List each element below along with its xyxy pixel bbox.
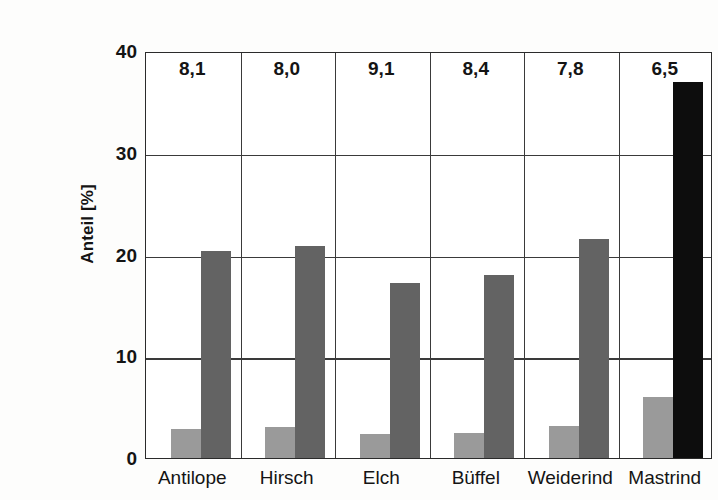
value-label-weiderind: 7,8 bbox=[523, 59, 618, 78]
value-label-antilope: 8,1 bbox=[145, 59, 240, 78]
bar-chart-figure: Anteil [%] 403020100 8,18,09,18,47,86,5 … bbox=[40, 16, 678, 484]
value-label-hirsch: 8,0 bbox=[240, 59, 335, 78]
bar-light-hirsch bbox=[265, 427, 295, 458]
gridline-10 bbox=[146, 358, 711, 359]
value-label-büffel: 8,4 bbox=[429, 59, 524, 78]
bar-light-antilope bbox=[171, 429, 201, 459]
y-tick-10: 10 bbox=[93, 347, 137, 366]
bar-dark-büffel bbox=[484, 275, 514, 458]
gridline-30 bbox=[146, 155, 711, 156]
group-divider bbox=[619, 53, 620, 458]
group-divider bbox=[335, 53, 336, 458]
group-divider bbox=[241, 53, 242, 458]
y-tick-30: 30 bbox=[93, 144, 137, 163]
bar-dark-weiderind bbox=[579, 239, 609, 458]
y-tick-20: 20 bbox=[93, 246, 137, 265]
category-label-elch: Elch bbox=[334, 468, 429, 487]
gridline-20 bbox=[146, 257, 711, 258]
group-divider bbox=[430, 53, 431, 458]
bar-dark-mastrind bbox=[673, 82, 703, 458]
category-label-mastrind: Mastrind bbox=[618, 468, 713, 487]
bar-dark-antilope bbox=[201, 251, 231, 458]
y-axis-tick-labels: 403020100 bbox=[87, 16, 137, 500]
bar-light-mastrind bbox=[643, 397, 673, 458]
category-label-weiderind: Weiderind bbox=[523, 468, 618, 487]
bar-light-elch bbox=[360, 434, 390, 458]
value-label-mastrind: 6,5 bbox=[618, 59, 713, 78]
y-tick-0: 0 bbox=[93, 449, 137, 468]
plot-area bbox=[145, 52, 712, 459]
bar-light-büffel bbox=[454, 433, 484, 458]
category-label-büffel: Büffel bbox=[429, 468, 524, 487]
category-label-hirsch: Hirsch bbox=[240, 468, 335, 487]
value-label-elch: 9,1 bbox=[334, 59, 429, 78]
y-tick-40: 40 bbox=[93, 42, 137, 61]
group-divider bbox=[524, 53, 525, 458]
bar-dark-elch bbox=[390, 283, 420, 458]
bar-light-weiderind bbox=[549, 426, 579, 458]
bar-dark-hirsch bbox=[295, 246, 325, 458]
category-label-antilope: Antilope bbox=[145, 468, 240, 487]
